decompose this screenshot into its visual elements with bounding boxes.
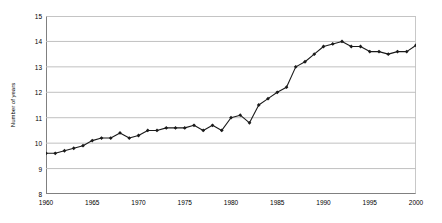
- x-axis-tick-label: 2000: [409, 199, 423, 206]
- x-axis-tick-label: 1965: [85, 199, 99, 206]
- data-point: [155, 129, 159, 133]
- data-point: [331, 42, 335, 46]
- data-point: [72, 146, 76, 150]
- y-axis-tick-label: 13: [35, 63, 42, 70]
- x-axis-tick-label: 1970: [131, 199, 145, 206]
- plot-area-wrapper: [46, 16, 416, 194]
- data-point: [46, 151, 48, 155]
- x-axis-tick-label: 1980: [224, 199, 238, 206]
- y-axis-tick-label: 15: [35, 13, 42, 20]
- x-axis-tick-label: 1975: [178, 199, 192, 206]
- data-point: [100, 136, 104, 140]
- data-point: [183, 126, 187, 130]
- x-axis-tick-label: 1960: [39, 199, 53, 206]
- y-axis-tick-label: 14: [35, 38, 42, 45]
- y-axis-tick-label: 8: [38, 191, 42, 198]
- data-point: [174, 126, 178, 130]
- x-axis-tick-label: 1985: [270, 199, 284, 206]
- x-axis-tick-label: 1995: [363, 199, 377, 206]
- x-axis-tick-label: 1990: [316, 199, 330, 206]
- data-point: [396, 50, 400, 54]
- y-axis-tick-label: 10: [35, 140, 42, 147]
- y-axis-tick-label: 9: [38, 165, 42, 172]
- x-axis-tick-labels: 196019651970197519801985199019952000: [46, 199, 416, 213]
- y-axis-tick-label: 12: [35, 89, 42, 96]
- y-axis-tick-labels: 89101112131415: [0, 16, 42, 194]
- chart-container: Number of years 89101112131415 196019651…: [0, 0, 442, 223]
- chart-svg: [46, 16, 416, 194]
- data-point: [377, 50, 381, 54]
- data-point: [53, 151, 57, 155]
- data-point: [63, 149, 67, 153]
- y-axis-tick-label: 11: [35, 114, 42, 121]
- data-point: [164, 126, 168, 130]
- data-point: [386, 52, 390, 56]
